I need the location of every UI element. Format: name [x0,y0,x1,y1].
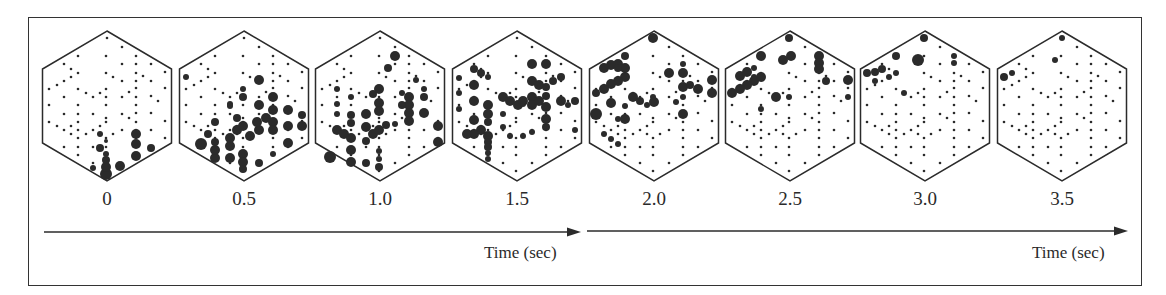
active-site-dot [469,80,479,90]
electrode-dot [697,112,700,115]
electrode-dot [768,92,771,95]
frame-label-0: 0 [67,188,147,210]
electrode-dot [1003,121,1006,124]
electrode-dot [804,46,807,49]
electrode-dot [106,37,109,40]
electrode-dot [804,113,807,116]
electrode-dot [301,87,304,90]
electrode-dot [1097,75,1100,78]
electrode-dot [336,146,339,149]
active-site-dot [622,103,628,109]
electrode-dot [881,63,884,66]
active-site-dot [419,108,429,118]
electrode-dot [617,125,620,128]
active-site-dot [348,94,354,100]
electrode-dot [788,117,791,120]
active-site-dot [456,106,462,112]
electrode-dot [1076,63,1079,66]
electrode-dot [1032,137,1035,140]
electrode-dot [1105,63,1108,66]
active-site-dot [485,74,491,80]
active-site-dot [614,64,622,72]
electrode-dot [56,84,59,87]
electrode-dot [222,92,225,95]
electrode-dot [1083,117,1086,120]
electrode-dot [652,121,655,124]
active-site-dot [742,67,752,77]
active-site-dot [376,156,382,162]
electrode-dot [659,133,662,136]
electrode-dot [818,129,821,132]
hexagon-outline [998,31,1127,181]
active-site-dot [556,96,566,106]
electrode-dot [682,104,685,107]
active-site-dot [211,138,219,146]
electrode-dot [408,87,411,90]
electrode-dot [515,137,518,140]
electrode-dot [473,146,476,149]
electrode-dot [874,125,877,128]
electrode-dot [668,162,671,165]
electrode-dot [135,55,138,58]
electrode-dot [574,71,577,74]
active-site-dot [255,159,263,167]
electrode-dot [560,146,563,149]
electrode-dot [105,146,108,149]
electrode-dot [1047,96,1050,99]
electrode-dot [105,137,108,140]
electrode-dot [229,96,232,99]
active-site-dot [571,97,579,105]
electrode-dot [910,146,913,149]
electrode-dot [1076,113,1079,116]
electrode-dot [1040,133,1043,136]
electrode-dot [1032,55,1035,58]
electrode-dot [531,162,534,165]
electrode-dot [1032,154,1035,157]
electrode-dot [895,121,898,124]
electrode-dot [1060,121,1063,124]
electrode-dot [659,76,662,79]
electrode-dot [394,129,397,132]
electrode-dot [760,137,763,140]
electrode-dot [272,146,275,149]
electrode-dot [121,129,124,132]
active-site-dot [664,68,674,78]
electrode-dot [746,96,749,99]
electrode-dot [207,68,210,71]
electrode-dot [193,84,196,87]
electrode-dot [711,120,714,123]
electrode-dot [788,137,791,140]
active-site-dot [268,105,278,115]
electrode-dot [917,125,920,128]
electrode-dot [610,113,613,116]
electrode-dot [953,146,956,149]
electrode-dot [200,80,203,83]
electrode-dot [77,129,80,132]
electrode-dot [968,80,971,83]
electrode-dot [804,96,807,99]
electrode-dot [982,87,985,90]
electrode-dot [1090,129,1093,132]
electrode-dot [495,92,498,95]
electrode-dot [214,104,217,107]
active-site-dot [1000,73,1008,81]
active-site-dot [469,96,479,106]
electrode-dot [1018,146,1021,149]
electrode-dot [321,88,324,91]
electrode-dot [164,71,167,74]
electrode-dot [953,154,956,157]
electrode-dot [1025,68,1028,71]
electrode-dot [242,104,245,107]
active-site-dot [707,88,717,98]
active-site-dot [382,121,390,129]
electrode-dot [105,104,108,107]
electrode-dot [1090,87,1093,90]
electrode-dot [92,129,95,132]
active-site-dot [404,116,414,126]
electrode-dot [1090,154,1093,157]
electrode-dot [200,129,203,132]
electrode-dot [788,72,791,75]
active-site-dot [912,54,924,66]
electrode-dot [811,117,814,120]
electrode-dot [804,162,807,165]
